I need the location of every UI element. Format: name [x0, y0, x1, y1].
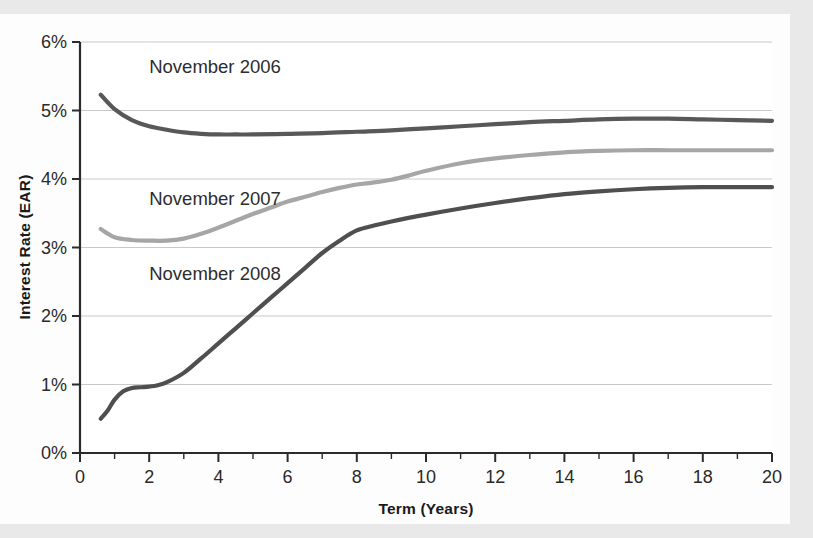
- x-tick-label-8: 8: [352, 467, 362, 487]
- y-axis-ticks: 0%1%2%3%4%5%6%: [41, 32, 80, 463]
- x-tick-label-12: 12: [485, 467, 505, 487]
- chart-card: 0%1%2%3%4%5%6% 02468101214161820 Novembe…: [0, 14, 790, 524]
- x-tick-label-4: 4: [213, 467, 223, 487]
- x-tick-label-14: 14: [554, 467, 574, 487]
- x-tick-label-20: 20: [762, 467, 782, 487]
- y-tick-label-0%: 0%: [41, 443, 67, 463]
- chart-figure: 0%1%2%3%4%5%6% 02468101214161820 Novembe…: [0, 0, 813, 538]
- y-axis-title: Interest Rate (EAR): [16, 174, 33, 319]
- yield-curve-chart: 0%1%2%3%4%5%6% 02468101214161820 Novembe…: [0, 14, 790, 524]
- x-axis-title: Term (Years): [378, 500, 473, 517]
- x-axis-ticks: 02468101214161820: [75, 453, 782, 487]
- x-tick-label-18: 18: [693, 467, 713, 487]
- y-tick-label-1%: 1%: [41, 375, 67, 395]
- y-tick-label-3%: 3%: [41, 238, 67, 258]
- x-tick-label-2: 2: [144, 467, 154, 487]
- y-tick-label-2%: 2%: [41, 306, 67, 326]
- y-tick-label-5%: 5%: [41, 101, 67, 121]
- y-tick-label-6%: 6%: [41, 32, 67, 52]
- y-tick-label-4%: 4%: [41, 169, 67, 189]
- series-label-november-2008: November 2008: [149, 263, 281, 284]
- series-label-november-2007: November 2007: [149, 188, 281, 209]
- x-tick-label-16: 16: [624, 467, 644, 487]
- series-label-november-2006: November 2006: [149, 56, 281, 77]
- x-tick-label-0: 0: [75, 467, 85, 487]
- x-tick-label-10: 10: [416, 467, 436, 487]
- x-tick-label-6: 6: [283, 467, 293, 487]
